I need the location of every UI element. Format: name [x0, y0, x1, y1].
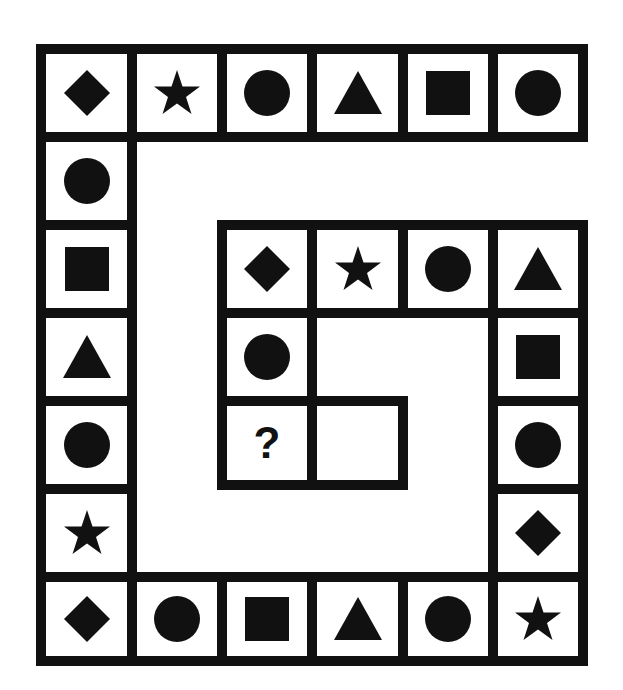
shape-cell	[36, 220, 137, 318]
shape-cell	[488, 572, 588, 666]
shape-cell	[36, 572, 137, 666]
square-icon	[513, 332, 563, 382]
shape-cell	[307, 44, 408, 142]
shape-cell	[127, 572, 227, 666]
circle-icon	[152, 594, 202, 644]
square-icon	[62, 244, 112, 294]
circle-icon	[513, 68, 563, 118]
circle-icon	[242, 332, 292, 382]
shape-cell	[307, 572, 408, 666]
circle-icon	[62, 420, 112, 470]
circle-icon	[423, 594, 473, 644]
empty-cell	[307, 396, 408, 490]
triangle-icon	[333, 68, 383, 118]
square-icon	[242, 594, 292, 644]
circle-icon	[513, 420, 563, 470]
shape-cell	[488, 396, 588, 494]
shape-cell	[127, 44, 227, 142]
square-icon	[423, 68, 473, 118]
shape-cell	[217, 308, 317, 406]
triangle-icon	[333, 594, 383, 644]
shape-cell	[36, 396, 137, 494]
shape-cell	[217, 220, 317, 318]
star-icon	[62, 508, 112, 558]
star-icon	[333, 244, 383, 294]
shape-cell	[398, 220, 498, 318]
diamond-icon	[513, 508, 563, 558]
shape-cell	[36, 308, 137, 406]
shape-cell	[488, 220, 588, 318]
diamond-icon	[62, 594, 112, 644]
spiral-puzzle-board: ?	[0, 0, 623, 690]
shape-cell	[488, 44, 588, 142]
shape-cell	[36, 132, 137, 230]
star-icon	[513, 594, 563, 644]
missing-cell: ?	[217, 396, 317, 490]
shape-cell	[36, 44, 137, 142]
shape-cell	[36, 484, 137, 582]
shape-cell	[307, 220, 408, 318]
circle-icon	[242, 68, 292, 118]
diamond-icon	[242, 244, 292, 294]
shape-cell	[488, 308, 588, 406]
circle-icon	[62, 156, 112, 206]
shape-cell	[217, 44, 317, 142]
shape-cell	[398, 44, 498, 142]
triangle-icon	[62, 332, 112, 382]
shape-cell	[488, 484, 588, 582]
shape-cell	[398, 572, 498, 666]
shape-cell	[217, 572, 317, 666]
star-icon	[152, 68, 202, 118]
diamond-icon	[62, 68, 112, 118]
triangle-icon	[513, 244, 563, 294]
circle-icon	[423, 244, 473, 294]
question-mark: ?	[254, 421, 281, 465]
